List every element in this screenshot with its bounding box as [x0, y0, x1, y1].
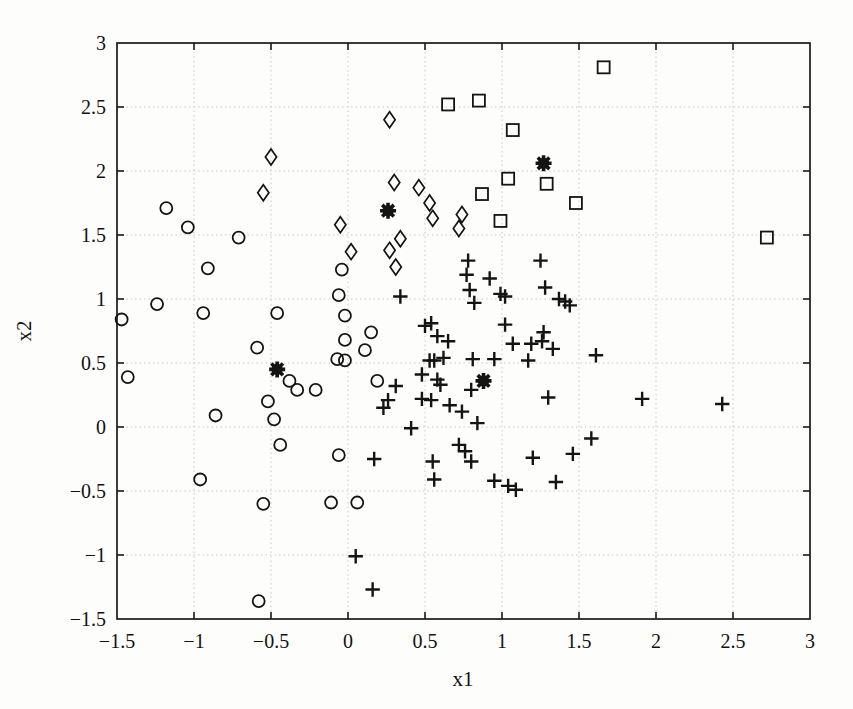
marker-plus	[526, 451, 540, 465]
series-cluster-centers	[269, 155, 551, 389]
marker-plus	[521, 353, 535, 367]
marker-plus	[470, 416, 484, 430]
x-tick-label: 1.5	[567, 630, 592, 652]
y-tick-label: −1.5	[70, 608, 106, 630]
marker-diamond	[453, 221, 464, 237]
marker-plus	[426, 454, 440, 468]
marker-square	[442, 98, 454, 110]
marker-circle	[262, 395, 274, 407]
marker-circle	[371, 375, 383, 387]
marker-plus	[715, 397, 729, 411]
marker-circle	[151, 298, 163, 310]
x-tick-label: 0.5	[413, 630, 438, 652]
marker-plus	[461, 253, 475, 267]
marker-cluster-center	[536, 155, 552, 171]
marker-plus	[415, 392, 429, 406]
y-tick-label: 2	[96, 160, 106, 182]
marker-plus	[424, 393, 438, 407]
marker-plus	[524, 337, 538, 351]
y-tick-label: 1.5	[81, 224, 106, 246]
marker-circle	[310, 384, 322, 396]
marker-square	[473, 95, 485, 107]
marker-diamond	[335, 217, 346, 233]
marker-circle	[194, 473, 206, 485]
marker-plus	[415, 367, 429, 381]
marker-circle	[253, 595, 265, 607]
marker-circle	[351, 497, 363, 509]
marker-plus	[584, 431, 598, 445]
marker-circle	[339, 310, 351, 322]
marker-square	[761, 232, 773, 244]
marker-circle	[268, 413, 280, 425]
plot-border	[117, 43, 810, 619]
marker-circle	[271, 307, 283, 319]
marker-plus	[389, 379, 403, 393]
series-cluster-circles	[116, 202, 384, 607]
x-tick-label: 2.5	[721, 630, 746, 652]
marker-circle	[333, 449, 345, 461]
marker-diamond	[424, 195, 435, 211]
y-tick-label: 0	[96, 416, 106, 438]
x-tick-label: 3	[805, 630, 815, 652]
marker-diamond	[389, 175, 400, 191]
x-tick-label: −1	[183, 630, 204, 652]
marker-square	[494, 215, 506, 227]
marker-diamond	[395, 231, 406, 247]
marker-circle	[202, 262, 214, 274]
marker-diamond	[456, 207, 467, 223]
x-tick-label: 0	[343, 630, 353, 652]
scatter-plot: −1.5−1−0.500.511.522.53 −1.5−1−0.500.511…	[0, 0, 853, 709]
series-cluster-squares	[442, 61, 773, 243]
y-tick-label: 2.5	[81, 96, 106, 118]
marker-plus	[393, 289, 407, 303]
tick-marks	[117, 43, 810, 619]
figure: −1.5−1−0.500.511.522.53 −1.5−1−0.500.511…	[0, 0, 853, 709]
marker-circle	[359, 344, 371, 356]
marker-plus	[462, 283, 476, 297]
x-tick-label: 1	[497, 630, 507, 652]
marker-plus	[464, 383, 478, 397]
marker-square	[502, 173, 514, 185]
marker-diamond	[413, 180, 424, 196]
marker-plus	[467, 296, 481, 310]
grid-layer	[117, 43, 810, 619]
marker-circle	[122, 371, 134, 383]
marker-circle	[291, 384, 303, 396]
marker-circle	[257, 498, 269, 510]
y-tick-labels: −1.5−1−0.500.511.522.53	[70, 32, 106, 630]
marker-circle	[210, 409, 222, 421]
marker-circle	[182, 221, 194, 233]
marker-plus	[566, 447, 580, 461]
marker-square	[476, 188, 488, 200]
marker-plus	[442, 398, 456, 412]
y-tick-label: 1	[96, 288, 106, 310]
marker-circle	[233, 232, 245, 244]
marker-plus	[506, 337, 520, 351]
marker-circle	[274, 439, 286, 451]
marker-plus	[498, 317, 512, 331]
marker-diamond	[345, 244, 356, 260]
marker-circle	[325, 497, 337, 509]
x-tick-label: −1.5	[99, 630, 135, 652]
center-disc	[538, 158, 549, 169]
marker-plus	[427, 472, 441, 486]
marker-plus	[487, 352, 501, 366]
marker-plus	[466, 352, 480, 366]
marker-cluster-center	[380, 203, 396, 219]
y-tick-label: 0.5	[81, 352, 106, 374]
marker-circle	[336, 264, 348, 276]
center-disc	[382, 205, 393, 216]
center-disc	[272, 364, 283, 375]
series-layer	[116, 61, 773, 607]
x-tick-labels: −1.5−1−0.500.511.522.53	[99, 630, 815, 652]
marker-circle	[160, 202, 172, 214]
y-tick-label: −1	[85, 544, 106, 566]
marker-plus	[549, 475, 563, 489]
marker-square	[541, 178, 553, 190]
marker-plus	[536, 325, 550, 339]
x-tick-label: −0.5	[253, 630, 289, 652]
marker-cluster-center	[476, 373, 492, 389]
marker-diamond	[427, 210, 438, 226]
y-tick-label: −0.5	[70, 480, 106, 502]
x-tick-label: 2	[651, 630, 661, 652]
